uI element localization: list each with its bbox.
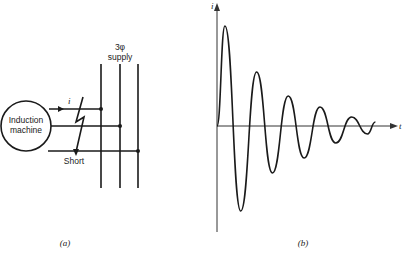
- figure-root: Induction machine i 3φ supply Short (a) …: [0, 0, 403, 254]
- short-lightning-icon: [76, 97, 84, 152]
- x-axis-arrow-icon: [390, 123, 398, 129]
- caption-a: (a): [60, 238, 71, 248]
- figure-a: Induction machine i 3φ supply Short (a): [1, 42, 140, 248]
- junction-dot-2: [118, 124, 122, 128]
- y-axis-arrow-icon: [214, 3, 220, 11]
- machine-label-line2: machine: [10, 125, 42, 135]
- short-label: Short: [64, 156, 85, 166]
- current-label: i: [68, 96, 71, 106]
- supply-label-line2: supply: [108, 52, 133, 62]
- y-axis-label: i: [211, 1, 214, 11]
- junction-dot-1: [99, 107, 103, 111]
- x-axis-label: t: [399, 121, 402, 131]
- current-arrow-icon: [58, 106, 64, 112]
- machine-label-line1: Induction: [9, 115, 44, 125]
- figure-b: i t (b): [211, 1, 402, 248]
- current-waveform: [217, 26, 375, 211]
- supply-label-line1: 3φ: [115, 42, 126, 52]
- junction-dot-3: [136, 149, 140, 153]
- caption-b: (b): [298, 238, 309, 248]
- short-arrow-icon: [73, 149, 79, 156]
